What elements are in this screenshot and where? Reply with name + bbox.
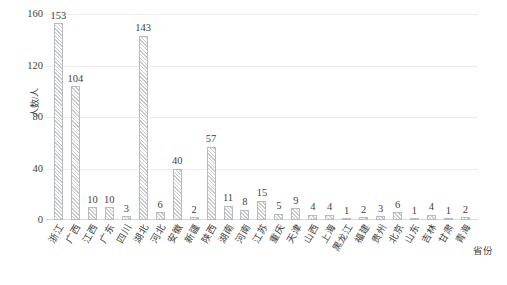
bar-slot: 1 xyxy=(406,14,423,220)
bar[interactable] xyxy=(88,207,97,220)
x-axis-title: 省份 xyxy=(473,247,493,257)
x-tick-label: 山东 xyxy=(404,223,422,245)
bar[interactable] xyxy=(461,217,470,220)
y-tick-label: 80 xyxy=(33,112,44,123)
x-tick-slot: 江苏 xyxy=(253,221,270,279)
x-tick-slot: 河南 xyxy=(236,221,253,279)
x-axis-tick-labels: 浙江广西江西广东四川湖北河北安徽新疆陕西湖南河南江苏重庆天津山西上海黑龙江福建贵… xyxy=(46,221,478,279)
bar[interactable] xyxy=(122,216,131,220)
bar[interactable] xyxy=(224,206,233,220)
bar-value-label: 104 xyxy=(68,74,84,85)
bar-slot: 4 xyxy=(423,14,440,220)
x-tick-label: 新疆 xyxy=(184,223,202,245)
x-tick-slot: 广西 xyxy=(67,221,84,279)
y-tick-label: 120 xyxy=(27,60,43,71)
bar-slot: 1 xyxy=(338,14,355,220)
y-tick-label: 40 xyxy=(33,163,44,174)
bar[interactable] xyxy=(156,212,165,220)
bar[interactable] xyxy=(105,207,114,220)
plot-area: 1531041010314364025711815594412361412 xyxy=(46,14,478,220)
bar-value-label: 6 xyxy=(395,200,400,211)
bar-slot: 5 xyxy=(270,14,287,220)
bar-value-label: 2 xyxy=(361,205,366,216)
x-tick-slot: 天津 xyxy=(287,221,304,279)
bar-slot: 11 xyxy=(220,14,237,220)
y-tick-label: 0 xyxy=(38,215,43,226)
bar-value-label: 57 xyxy=(206,134,217,145)
x-tick-label: 四川 xyxy=(116,223,134,245)
x-tick-slot: 北京 xyxy=(389,221,406,279)
bar[interactable] xyxy=(427,215,436,220)
bar[interactable] xyxy=(190,217,199,220)
x-tick-slot: 贵州 xyxy=(372,221,389,279)
bar-value-label: 9 xyxy=(293,196,298,207)
y-tick-label: 160 xyxy=(27,9,43,20)
bar-value-label: 1 xyxy=(412,206,417,217)
x-tick-slot: 吉林 xyxy=(423,221,440,279)
x-tick-label: 湖南 xyxy=(218,223,236,245)
x-tick-label: 江西 xyxy=(82,223,100,245)
x-tick-label: 河北 xyxy=(150,223,168,245)
bar-value-label: 5 xyxy=(276,201,281,212)
x-tick-label: 河南 xyxy=(235,223,253,245)
x-tick-slot: 河北 xyxy=(152,221,169,279)
bar[interactable] xyxy=(139,36,148,220)
bar-value-label: 4 xyxy=(429,202,434,213)
bar-value-label: 4 xyxy=(327,202,332,213)
bar-slot: 2 xyxy=(186,14,203,220)
x-tick-slot: 重庆 xyxy=(270,221,287,279)
x-tick-slot: 青海 xyxy=(457,221,474,279)
y-axis-tick-labels: 04080120160 xyxy=(0,0,46,240)
bar-value-label: 143 xyxy=(135,23,151,34)
bar[interactable] xyxy=(274,214,283,220)
bar-value-label: 8 xyxy=(242,197,247,208)
bar-slot: 4 xyxy=(321,14,338,220)
bar[interactable] xyxy=(393,212,402,220)
bar[interactable] xyxy=(325,215,334,220)
x-tick-label: 山西 xyxy=(303,223,321,245)
bar-value-label: 10 xyxy=(87,195,98,206)
bar-slot: 9 xyxy=(287,14,304,220)
bar[interactable] xyxy=(376,216,385,220)
x-tick-label: 吉林 xyxy=(421,223,439,245)
x-tick-label: 陕西 xyxy=(201,223,219,245)
bar-slot: 104 xyxy=(67,14,84,220)
x-tick-slot: 湖南 xyxy=(220,221,237,279)
bar-slot: 2 xyxy=(355,14,372,220)
bar-value-label: 153 xyxy=(51,11,67,22)
bar[interactable] xyxy=(308,215,317,220)
x-tick-slot: 四川 xyxy=(118,221,135,279)
bar-slot: 2 xyxy=(457,14,474,220)
x-tick-label: 贵州 xyxy=(371,223,389,245)
bar-value-label: 40 xyxy=(172,156,183,167)
bar-slot: 153 xyxy=(50,14,67,220)
x-tick-slot: 安徽 xyxy=(169,221,186,279)
x-tick-slot: 甘肃 xyxy=(440,221,457,279)
bar-value-label: 6 xyxy=(158,200,163,211)
bar-value-label: 1 xyxy=(446,206,451,217)
bar-slot: 15 xyxy=(253,14,270,220)
bar[interactable] xyxy=(291,208,300,220)
bar[interactable] xyxy=(54,23,63,220)
bar[interactable] xyxy=(71,86,80,220)
bar[interactable] xyxy=(359,217,368,220)
bar[interactable] xyxy=(410,218,419,220)
bar[interactable] xyxy=(342,218,351,220)
bar-slot: 4 xyxy=(304,14,321,220)
x-tick-label: 湖北 xyxy=(133,223,151,245)
bar[interactable] xyxy=(257,201,266,220)
bar-slot: 3 xyxy=(118,14,135,220)
bar-slot: 3 xyxy=(372,14,389,220)
bar-slot: 10 xyxy=(101,14,118,220)
bar-value-label: 1 xyxy=(344,206,349,217)
bar-chart: 人数/人 04080120160 15310410103143640257118… xyxy=(0,0,507,285)
bar[interactable] xyxy=(207,147,216,220)
bar-slot: 57 xyxy=(203,14,220,220)
x-tick-label: 甘肃 xyxy=(438,223,456,245)
x-tick-slot: 福建 xyxy=(355,221,372,279)
bar[interactable] xyxy=(173,169,182,221)
bar[interactable] xyxy=(240,210,249,220)
bar-slot: 143 xyxy=(135,14,152,220)
bar[interactable] xyxy=(444,218,453,220)
x-tick-slot: 新疆 xyxy=(186,221,203,279)
